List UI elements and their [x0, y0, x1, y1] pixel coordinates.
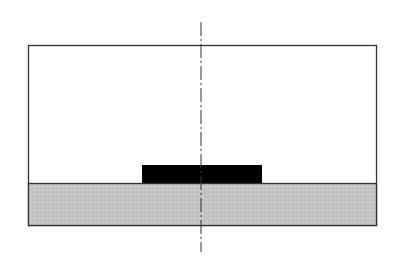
cross-section-diagram: [0, 0, 402, 270]
substrate-layer: [29, 184, 377, 226]
black-block: [142, 165, 262, 183]
